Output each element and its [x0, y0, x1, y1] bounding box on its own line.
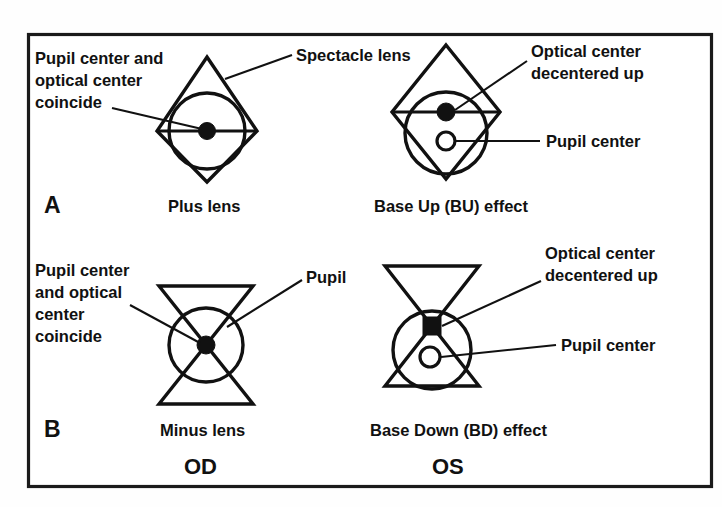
callout-optical-center-bu-line1: Optical center: [531, 42, 642, 60]
optical-center-square-icon-bd: [423, 317, 441, 335]
optical-center-dot-icon: [199, 123, 216, 140]
panel-letter-a: A: [44, 192, 61, 218]
optical-diagram-figure: Pupil center and optical center coincide…: [0, 0, 722, 507]
caption-plus-lens: Plus lens: [168, 197, 240, 215]
callout-coincide-b-line3: center: [35, 305, 85, 323]
figure-canvas: Pupil center and optical center coincide…: [0, 0, 722, 507]
pupil-center-ring-icon-bd: [420, 347, 440, 367]
label-os: OS: [432, 454, 464, 479]
callout-coincide-a-line1: Pupil center and: [35, 49, 163, 67]
optical-center-dot-icon-bu: [437, 103, 455, 121]
callout-coincide-b-line2: and optical: [35, 283, 122, 301]
callout-pupil: Pupil: [306, 268, 346, 286]
pupil-center-ring-icon-bu: [437, 132, 455, 150]
callout-optical-center-bu-line2: decentered up: [531, 64, 644, 82]
callout-pupil-center-bu: Pupil center: [546, 132, 641, 150]
callout-coincide-b-line4: coincide: [35, 327, 102, 345]
caption-minus-lens: Minus lens: [160, 421, 245, 439]
callout-optical-center-bd-line2: decentered up: [545, 266, 658, 284]
panel-letter-b: B: [44, 416, 61, 442]
callout-spectacle-lens: Spectacle lens: [296, 46, 411, 64]
caption-base-up: Base Up (BU) effect: [374, 197, 529, 215]
callout-coincide-b-line1: Pupil center: [35, 261, 130, 279]
label-od: OD: [184, 454, 217, 479]
callout-coincide-a-line2: optical center: [35, 71, 143, 89]
optical-center-dot-icon-minus: [197, 336, 215, 354]
callout-coincide-a-line3: coincide: [35, 93, 102, 111]
callout-pupil-center-bd: Pupil center: [561, 336, 656, 354]
callout-optical-center-bd-line1: Optical center: [545, 244, 656, 262]
caption-base-down: Base Down (BD) effect: [370, 421, 547, 439]
